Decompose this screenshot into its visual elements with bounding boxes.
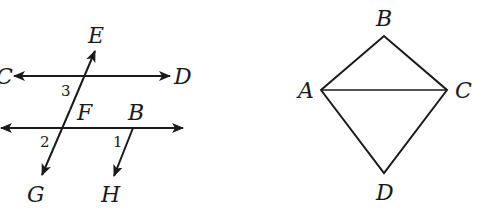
geometry-diagram: E C D F B G H 3 2 1 B A C D	[0, 0, 491, 220]
quadrilateral-abcd	[321, 36, 447, 173]
label-d: D	[375, 180, 394, 205]
label-c: C	[0, 64, 13, 89]
label-f: F	[76, 100, 93, 125]
angle-3-label: 3	[61, 82, 71, 100]
label-d: D	[173, 64, 192, 89]
angle-2-label: 2	[40, 133, 50, 151]
label-e: E	[87, 23, 104, 48]
quadrilateral-figure: B A C D	[296, 6, 472, 205]
label-b: B	[127, 100, 144, 125]
label-g: G	[27, 182, 45, 207]
label-h: H	[100, 182, 121, 207]
angle-1-label: 1	[113, 133, 123, 151]
label-c: C	[455, 78, 472, 103]
label-b: B	[375, 6, 392, 31]
parallel-lines-figure: E C D F B G H 3 2 1	[0, 23, 192, 207]
label-a: A	[296, 78, 314, 103]
